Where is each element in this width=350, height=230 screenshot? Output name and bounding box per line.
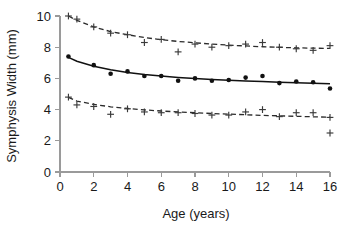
data-point-marker bbox=[328, 86, 333, 91]
data-point-marker bbox=[108, 71, 113, 76]
symphysis-width-scatter-chart: 0246810 0246810121416 Symphysis Width (m… bbox=[0, 0, 350, 230]
x-tick-label: 2 bbox=[90, 179, 97, 194]
y-tick-label: 10 bbox=[37, 9, 51, 24]
x-tick-label: 12 bbox=[255, 179, 269, 194]
data-point-marker bbox=[125, 69, 130, 74]
data-point-marker bbox=[260, 74, 265, 79]
x-tick-label: 0 bbox=[56, 179, 63, 194]
data-point-marker bbox=[294, 79, 299, 84]
y-tick-label: 8 bbox=[44, 40, 51, 55]
chart-background bbox=[0, 0, 350, 230]
y-axis-title: Symphysis Width (mm) bbox=[4, 29, 19, 163]
data-point-marker bbox=[277, 81, 282, 86]
x-tick-label: 6 bbox=[158, 179, 165, 194]
x-axis-title: Age (years) bbox=[162, 206, 229, 221]
data-point-marker bbox=[91, 63, 96, 68]
data-point-marker bbox=[142, 74, 147, 79]
data-point-marker bbox=[311, 80, 316, 85]
data-point-marker bbox=[226, 78, 231, 83]
x-tick-label: 16 bbox=[323, 179, 337, 194]
data-point-marker bbox=[159, 74, 164, 79]
chart-figure: 0246810 0246810121416 Symphysis Width (m… bbox=[0, 0, 350, 230]
x-tick-label: 4 bbox=[124, 179, 131, 194]
data-point-marker bbox=[243, 75, 248, 80]
data-point-marker bbox=[66, 54, 71, 59]
data-point-marker bbox=[210, 78, 215, 83]
data-point-marker bbox=[176, 78, 181, 83]
y-tick-label: 4 bbox=[44, 102, 51, 117]
y-tick-label: 0 bbox=[44, 165, 51, 180]
data-point-marker bbox=[193, 76, 198, 81]
x-tick-label: 14 bbox=[289, 179, 303, 194]
y-tick-label: 6 bbox=[44, 71, 51, 86]
x-tick-label: 10 bbox=[222, 179, 236, 194]
y-tick-label: 2 bbox=[44, 133, 51, 148]
x-tick-label: 8 bbox=[191, 179, 198, 194]
